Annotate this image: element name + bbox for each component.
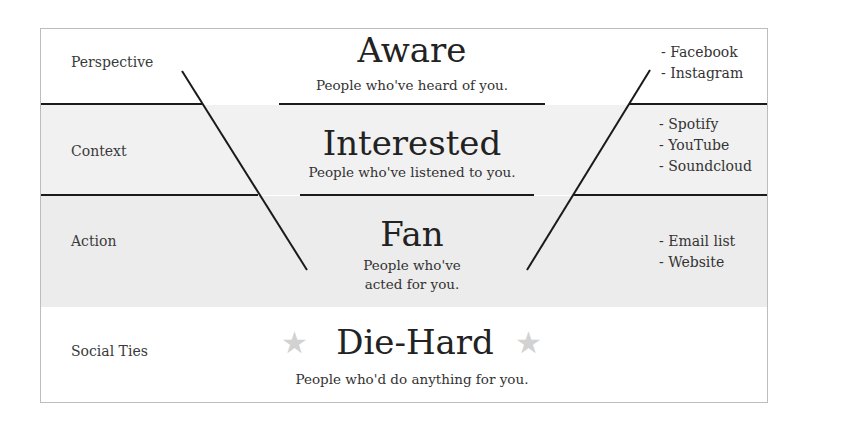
stage-desc-fan-line2: acted for you. (330, 275, 494, 294)
platform-item: - Spotify (659, 114, 752, 135)
row-label-social-ties: Social Ties (71, 343, 148, 359)
platform-list-aware: - Facebook - Instagram (661, 42, 743, 84)
row-label-perspective: Perspective (71, 54, 153, 70)
platform-item: - Soundcloud (659, 156, 752, 177)
platform-item: - Facebook (661, 42, 743, 63)
star-icon: ★ (281, 328, 308, 358)
stage-desc-aware: People who've heard of you. (270, 76, 554, 95)
platform-item: - Website (659, 252, 735, 273)
star-icon: ★ (515, 328, 542, 358)
platform-list-fan: - Email list - Website (659, 231, 735, 273)
platform-item: - Email list (659, 231, 735, 252)
stage-desc-fan-line1: People who've (330, 256, 494, 275)
stage-desc-interested: People who've listened to you. (262, 163, 562, 182)
stage-desc-die-hard: People who'd do anything for you. (250, 370, 574, 389)
row-label-context: Context (71, 143, 127, 159)
stage-title-interested: Interested (270, 123, 554, 163)
platform-item: - YouTube (659, 135, 752, 156)
stage-title-die-hard: Die-Hard (320, 322, 510, 362)
platform-item: - Instagram (661, 63, 743, 84)
platform-list-interested: - Spotify - YouTube - Soundcloud (659, 114, 752, 177)
stage-title-fan: Fan (330, 214, 494, 254)
row-label-action: Action (71, 233, 117, 249)
stage-title-aware: Aware (280, 30, 544, 70)
